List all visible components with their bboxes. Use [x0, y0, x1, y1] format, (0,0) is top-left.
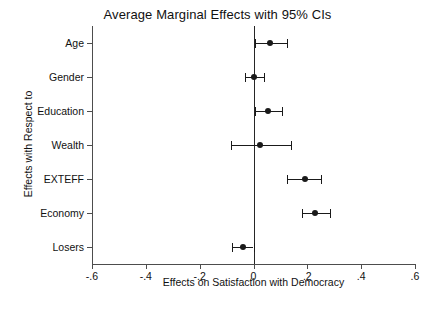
y-axis-label: Effects with Respect to	[22, 54, 34, 234]
ci-cap-low	[255, 107, 256, 116]
y-tick-mark	[87, 43, 92, 44]
x-tick-mark	[200, 264, 201, 269]
x-tick-mark	[361, 264, 362, 269]
x-tick-mark	[307, 264, 308, 269]
x-tick-mark	[146, 264, 147, 269]
y-tick-mark	[87, 145, 92, 146]
ci-cap-low	[231, 141, 232, 150]
y-tick-label: Economy	[40, 208, 84, 219]
y-tick-mark	[87, 213, 92, 214]
y-tick-label: Losers	[52, 242, 84, 253]
y-tick-label: EXTEFF	[44, 174, 84, 185]
y-tick-label: Education	[37, 106, 84, 117]
ci-cap-low	[245, 73, 246, 82]
ci-cap-high	[291, 141, 292, 150]
ci-cap-high	[254, 243, 255, 252]
ci-cap-low	[255, 39, 256, 48]
ci-cap-low	[302, 209, 303, 218]
y-tick-label: Age	[65, 38, 84, 49]
estimate-point-marker	[251, 74, 257, 80]
y-tick-mark	[87, 77, 92, 78]
chart-figure: Average Marginal Effects with 95% CIs Ef…	[0, 0, 435, 309]
estimate-point-marker	[302, 176, 308, 182]
ci-cap-low	[287, 175, 288, 184]
ci-cap-high	[282, 107, 283, 116]
ci-cap-high	[287, 39, 288, 48]
y-tick-mark	[87, 247, 92, 248]
ci-cap-high	[321, 175, 322, 184]
x-tick-mark	[254, 264, 255, 269]
ci-cap-low	[232, 243, 233, 252]
y-tick-label: Wealth	[52, 140, 85, 151]
estimate-point-marker	[267, 40, 273, 46]
x-axis-label: Effects on Satisfaction with Democracy	[92, 276, 415, 288]
chart-title: Average Marginal Effects with 95% CIs	[0, 7, 435, 22]
estimate-point-marker	[312, 210, 318, 216]
estimate-point-marker	[240, 244, 246, 250]
ci-cap-high	[330, 209, 331, 218]
y-tick-mark	[87, 179, 92, 180]
y-tick-mark	[87, 111, 92, 112]
y-tick-label: Gender	[49, 72, 84, 83]
x-tick-mark	[415, 264, 416, 269]
estimate-point-marker	[257, 142, 263, 148]
plot-area: AgeGenderEducationWealthEXTEFFEconomyLos…	[92, 26, 415, 264]
estimate-point-marker	[265, 108, 271, 114]
ci-cap-high	[264, 73, 265, 82]
x-tick-mark	[92, 264, 93, 269]
